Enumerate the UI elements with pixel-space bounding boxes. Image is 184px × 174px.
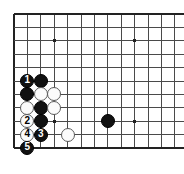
move-number-label: 1	[25, 75, 31, 85]
move-number-label: 4	[25, 129, 31, 139]
move-number-label: 2	[25, 116, 31, 126]
move-number-label: 3	[38, 129, 44, 139]
stone-white[interactable]	[47, 101, 61, 115]
stone-black[interactable]	[101, 114, 115, 128]
stone-black-move-3[interactable]: 3	[34, 128, 48, 142]
star-point	[133, 120, 136, 123]
stone-white[interactable]	[61, 128, 75, 142]
star-point	[53, 120, 56, 123]
move-number-label: 5	[25, 142, 31, 152]
go-diagram: 12435 go-board-problem	[0, 0, 184, 174]
stone-black[interactable]	[34, 74, 48, 88]
stone-black[interactable]	[34, 114, 48, 128]
stone-black[interactable]	[34, 101, 48, 115]
star-point	[133, 39, 136, 42]
star-point	[53, 39, 56, 42]
